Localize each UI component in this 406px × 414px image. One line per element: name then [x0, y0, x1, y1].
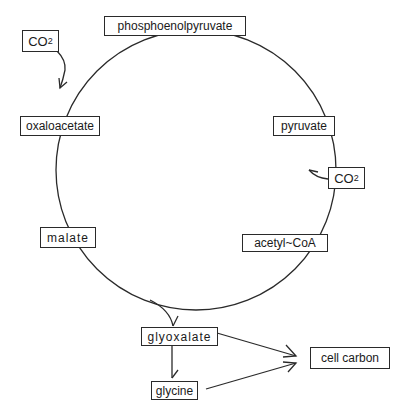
node-oxaloacetate: oxaloacetate — [20, 116, 100, 136]
glycine-to-cell-carbon-arrow — [206, 363, 296, 389]
glyoxalate-to-cell-carbon-arrow — [217, 333, 296, 356]
cycle-circle — [56, 30, 336, 310]
node-co2-left: CO2 — [22, 30, 59, 52]
node-phosphoenolpyruvate: phosphoenolpyruvate — [104, 16, 246, 36]
node-acetyl-coa: acetyl~CoA — [242, 234, 328, 252]
node-label: pyruvate — [281, 120, 327, 132]
node-cell-carbon: cell carbon — [310, 347, 390, 369]
node-label: CO — [28, 35, 48, 48]
node-label: cell carbon — [321, 352, 379, 364]
node-label: glyoxalate — [147, 331, 211, 343]
glycine-arrowhead — [172, 370, 178, 378]
co2-right-arrow — [309, 170, 328, 179]
node-label: oxaloacetate — [26, 120, 94, 132]
node-malate: malate — [40, 227, 96, 248]
node-label: malate — [47, 232, 89, 244]
node-label: glycine — [156, 385, 193, 397]
glyoxalate-arrowhead — [173, 316, 178, 326]
cell-carbon-arrowhead-2 — [283, 362, 296, 372]
node-label: acetyl~CoA — [254, 237, 316, 249]
node-label: CO — [334, 172, 354, 185]
node-pyruvate: pyruvate — [273, 116, 335, 136]
node-label: phosphoenolpyruvate — [118, 20, 233, 32]
node-glyoxalate: glyoxalate — [141, 327, 218, 346]
co2-left-arrow — [57, 51, 65, 88]
node-glycine: glycine — [151, 381, 198, 400]
node-co2-right: CO2 — [328, 167, 365, 189]
